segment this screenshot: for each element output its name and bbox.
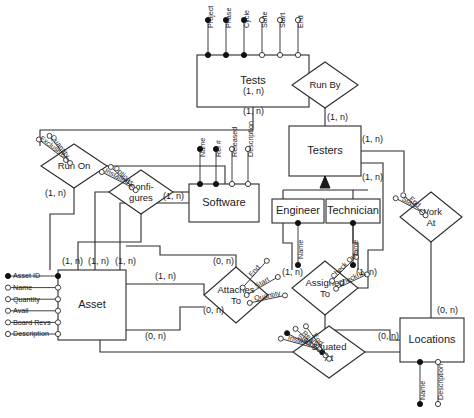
attr-label-tests-1: Phase <box>224 8 233 28</box>
attr-anchor-tests-0 <box>205 52 210 57</box>
attr-marker-locations-1[interactable] <box>435 401 440 406</box>
attr-anchor-attaches_to-0 <box>240 285 245 290</box>
attr-label-asset-0: Asset ID <box>13 271 40 280</box>
entity-label-technician: Technician <box>327 204 379 216</box>
attr-marker-asset-3[interactable] <box>5 308 10 313</box>
attr-label-tests-3: Suite <box>260 12 269 28</box>
entity-label-testers: Testers <box>307 144 343 156</box>
isa-triangle-icon <box>320 176 330 188</box>
isa-subtype-symbol <box>283 176 368 190</box>
entity-label-software: Software <box>202 196 245 208</box>
relationship-label-run_by: Run By <box>309 79 340 90</box>
entity-asset: AssetAsset IDNameQuantityAvailBoard Revs… <box>5 270 126 340</box>
attr-label-asset-4: Board Revs <box>13 318 51 327</box>
relationship-run_on: Run OnExclusiveQuantity <box>36 133 107 188</box>
relationship-label-attaches_to-line2: To <box>231 295 241 306</box>
attr-anchor-locations-0 <box>417 359 422 364</box>
entity-software: SoftwareNameRel #ReleasedDescription <box>189 121 259 222</box>
attr-anchor-tests-5 <box>295 52 300 57</box>
attr-marker-attaches_to-0[interactable] <box>264 258 269 263</box>
attr-anchor-engineer-0 <box>295 220 300 225</box>
attr-marker-situated_at-3[interactable] <box>303 324 308 329</box>
cardinality-label-c11: (1, n) <box>155 271 176 281</box>
attr-marker-asset-2[interactable] <box>5 297 10 302</box>
attr-anchor-asset-4 <box>55 320 60 325</box>
attr-marker-asset-1[interactable] <box>5 285 10 290</box>
attr-anchor-asset-3 <box>55 308 60 313</box>
cardinality-label-c17: (0, n) <box>437 305 458 315</box>
entity-engineer: EngineerName <box>272 199 324 268</box>
cardinality-label-c10: (1, n) <box>115 256 136 266</box>
connector-path-19 <box>126 307 204 330</box>
cardinality-label-c4: (1, n) <box>362 134 383 144</box>
attr-marker-asset-5[interactable] <box>5 331 10 336</box>
attr-label-locations-0: Name <box>418 381 427 400</box>
attr-label-asset-5: Description <box>13 329 49 338</box>
attr-anchor-asset-1 <box>55 285 60 290</box>
attr-marker-attaches_to-2[interactable] <box>282 293 287 298</box>
attr-marker-locations-0[interactable] <box>417 401 422 406</box>
entity-locations: LocationsNameDescription <box>400 318 464 407</box>
attr-anchor-technician-0 <box>350 220 355 225</box>
entity-label-tests: Tests <box>240 74 266 86</box>
attr-anchor-software-3 <box>245 181 250 186</box>
cardinality-label-c9: (1, n) <box>88 256 109 266</box>
er-diagram-canvas: TestsProjectPhaseCycleSuiteStartEndTeste… <box>0 0 474 418</box>
relationship-label-configures-line2: gures <box>129 192 153 203</box>
attr-label-attaches_to-1: Start <box>253 275 271 290</box>
attr-anchor-tests-4 <box>277 52 282 57</box>
attr-label-tests-0: Project <box>206 6 215 28</box>
cardinality-label-c13: (0, n) <box>203 305 224 315</box>
attr-anchor-run_on-1 <box>67 161 72 166</box>
entity-label-engineer: Engineer <box>276 204 320 216</box>
attr-anchor-tests-3 <box>259 52 264 57</box>
cardinality-label-c3: (1, n) <box>327 112 348 122</box>
relationship-label-run_on: Run On <box>58 160 91 171</box>
cardinality-label-c1: (1, n) <box>243 86 264 96</box>
attr-anchor-asset-0 <box>55 273 60 278</box>
attr-label-locations-1: Description <box>436 364 445 400</box>
attr-label-tests-2: Cycle <box>242 10 251 28</box>
attr-label-tests-4: Start <box>278 13 287 28</box>
attr-label-software-2: Released <box>230 127 239 157</box>
attr-anchor-software-2 <box>229 181 234 186</box>
attr-marker-situated_at-0[interactable] <box>278 336 283 341</box>
attr-marker-situated_at-2[interactable] <box>293 326 298 331</box>
attr-anchor-attaches_to-2 <box>247 300 252 305</box>
attr-marker-attaches_to-1[interactable] <box>275 275 280 280</box>
cardinality-label-c14: (0, n) <box>145 331 166 341</box>
attr-label-attaches_to-0: End <box>247 263 262 279</box>
attr-anchor-assigned_to-1 <box>334 286 339 291</box>
attr-marker-work_at-0[interactable] <box>393 196 398 201</box>
attr-marker-situated_at-1[interactable] <box>285 331 290 336</box>
cardinality-label-c12: (0, n) <box>213 256 234 266</box>
cardinality-label-c7: (1, n) <box>163 191 184 201</box>
er-diagram-svg: TestsProjectPhaseCycleSuiteStartEndTeste… <box>0 0 474 418</box>
attr-label-software-0: Name <box>198 138 207 157</box>
attr-anchor-work_at-1 <box>423 213 428 218</box>
relationship-label-assigned_to-line2: To <box>320 288 330 299</box>
cardinality-label-c16: (1, n) <box>356 267 377 277</box>
attr-anchor-software-1 <box>213 181 218 186</box>
attr-label-asset-3: Avail <box>13 306 29 315</box>
relationship-label-work_at-line2: At <box>427 217 436 228</box>
attr-anchor-asset-5 <box>55 331 60 336</box>
connector-path-3 <box>40 107 253 146</box>
relationship-situated_at: SituatedAtInstallerStartReadyEnd <box>278 324 365 378</box>
cardinality-label-c5: (1, n) <box>362 172 383 182</box>
attr-label-tests-5: End <box>296 15 305 28</box>
relationship-work_at: WorkAtStartEnd <box>393 192 462 242</box>
entity-testers: Testers <box>289 126 361 176</box>
attr-marker-asset-4[interactable] <box>5 320 10 325</box>
attr-anchor-tests-1 <box>223 52 228 57</box>
cardinality-label-c18: (0, n) <box>378 331 399 341</box>
attr-marker-asset-0[interactable] <box>5 273 10 278</box>
cardinality-label-c6: (1, n) <box>45 188 66 198</box>
attr-marker-work_at-1[interactable] <box>401 193 406 198</box>
attr-anchor-asset-2 <box>55 297 60 302</box>
attr-anchor-configures-1 <box>133 188 138 193</box>
attr-anchor-attaches_to-1 <box>244 293 249 298</box>
attr-anchor-tests-2 <box>241 52 246 57</box>
relationship-label-attaches_to-line1: Attaches <box>218 284 255 295</box>
connector-path-20 <box>100 335 293 352</box>
